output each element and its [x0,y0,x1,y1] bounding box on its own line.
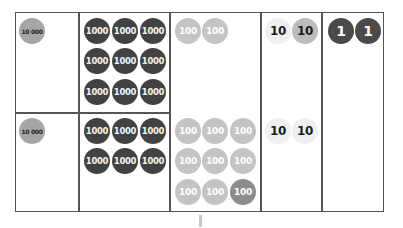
text-cursor-icon [199,215,202,227]
coin-1000[interactable]: 1000 [84,148,110,174]
coin-1000[interactable]: 1000 [112,118,138,144]
place-value-board [15,12,384,212]
coin-100[interactable]: 100 [202,18,228,44]
coin-1000[interactable]: 1000 [140,79,166,105]
column-divider [260,13,262,211]
coin-1000[interactable]: 1000 [84,18,110,44]
coin-1[interactable]: 1 [355,18,381,44]
coin-100[interactable]: 100 [230,148,256,174]
coin-1000[interactable]: 1000 [112,79,138,105]
coin-1000[interactable]: 1000 [140,18,166,44]
coin-10000[interactable]: 10 000 [19,118,45,144]
coin-100[interactable]: 100 [230,118,256,144]
coin-1000[interactable]: 1000 [112,48,138,74]
coin-10[interactable]: 10 [292,118,318,144]
coin-10[interactable]: 10 [292,18,318,44]
coin-100[interactable]: 100 [175,179,201,205]
coin-1000[interactable]: 1000 [84,48,110,74]
coin-1000[interactable]: 1000 [84,79,110,105]
coin-100-selected[interactable]: 100 [230,179,256,205]
coin-100[interactable]: 100 [175,18,201,44]
coin-1000[interactable]: 1000 [140,148,166,174]
coin-100[interactable]: 100 [202,118,228,144]
coin-1000[interactable]: 1000 [84,118,110,144]
coin-1000[interactable]: 1000 [140,48,166,74]
coin-10000[interactable]: 10 000 [19,18,45,44]
coin-1000[interactable]: 1000 [140,118,166,144]
coin-1000[interactable]: 1000 [112,18,138,44]
coin-100[interactable]: 100 [175,118,201,144]
coin-100[interactable]: 100 [175,148,201,174]
coin-10[interactable]: 10 [265,18,291,44]
coin-100[interactable]: 100 [202,148,228,174]
coin-10[interactable]: 10 [265,118,291,144]
coin-1[interactable]: 1 [328,18,354,44]
coin-1000[interactable]: 1000 [112,148,138,174]
column-divider [321,13,323,211]
row-divider [16,112,170,114]
coin-100[interactable]: 100 [202,179,228,205]
